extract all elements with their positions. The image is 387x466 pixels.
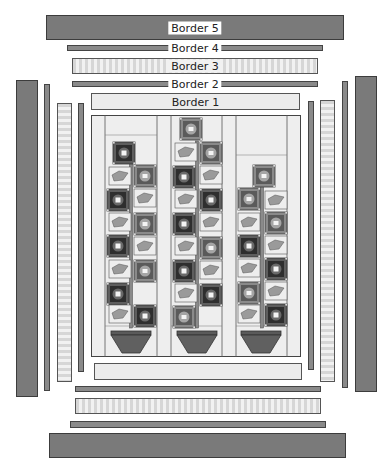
border-5-right (355, 76, 377, 392)
border-5-bottom (49, 433, 346, 458)
center-panel (91, 115, 301, 357)
border-2-top: Border 2 (72, 81, 318, 87)
border-3-top: Border 3 (72, 58, 318, 74)
border-4-top: Border 4 (67, 45, 323, 51)
border-2-label: Border 2 (168, 78, 221, 91)
border-3-right (320, 100, 335, 382)
pots (111, 331, 281, 353)
border-5-top: Border 5 (46, 15, 344, 40)
border-1-top: Border 1 (91, 93, 300, 110)
border-2-left (78, 103, 84, 372)
border-4-left (44, 84, 50, 391)
border-4-bottom (70, 421, 326, 428)
border-3-label: Border 3 (168, 60, 221, 73)
border-2-right (308, 101, 314, 370)
border-3-left (57, 103, 72, 382)
border-1-label: Border 1 (169, 95, 222, 108)
border-5-label: Border 5 (168, 21, 221, 34)
border-4-label: Border 4 (168, 42, 221, 55)
border-5-left (16, 80, 38, 397)
border-2-bottom (75, 386, 321, 392)
center-panel-artwork (91, 115, 301, 357)
border-1-bottom (94, 363, 302, 380)
border-4-right (342, 81, 348, 388)
border-3-bottom (75, 398, 321, 414)
